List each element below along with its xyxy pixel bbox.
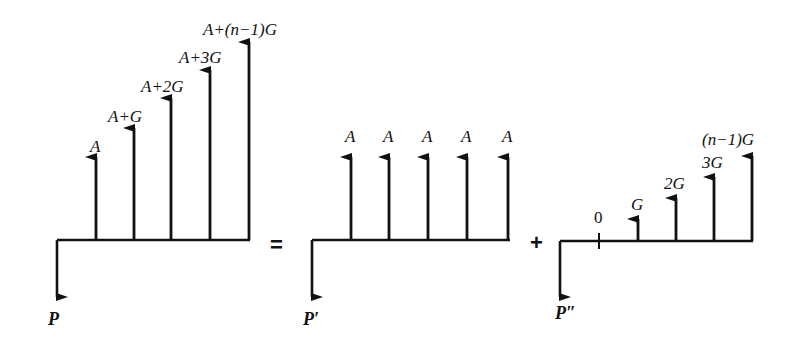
cash-flow-label: G — [631, 195, 643, 214]
equals-sign: = — [270, 232, 283, 257]
cash-flow-label: A — [421, 127, 433, 146]
cash-flow-label: A — [501, 127, 513, 146]
zero-label: 0 — [594, 208, 603, 227]
cash-flow-label: A — [344, 127, 356, 146]
cash-flow-label: A — [460, 127, 472, 146]
cash-flow-label: A — [89, 137, 101, 156]
cash-flow-label: 2G — [664, 174, 685, 193]
cash-flow-label: A+2G — [140, 77, 184, 96]
pure-gradient-series-diagram: P″ 0 G 2G 3G (n−1)G — [554, 130, 754, 323]
present-value-label: P′ — [302, 309, 319, 329]
cash-flow-label: A+3G — [178, 48, 222, 67]
cash-flow-diagram: P A A+G A+2G A+3G A+(n−1)G = P′ A A A A … — [0, 0, 802, 337]
present-value-label: P″ — [554, 303, 576, 323]
cash-flow-label: A — [382, 127, 394, 146]
present-value-label: P — [47, 309, 60, 329]
uniform-series-diagram: P′ A A A A A — [302, 127, 513, 329]
plus-sign: + — [530, 230, 543, 255]
cash-flow-label: 3G — [701, 153, 723, 172]
gradient-series-diagram: P A A+G A+2G A+3G A+(n−1)G — [47, 20, 277, 329]
cash-flow-label: (n−1)G — [702, 130, 754, 149]
cash-flow-label: A+(n−1)G — [202, 20, 277, 39]
cash-flow-label: A+G — [107, 107, 142, 126]
